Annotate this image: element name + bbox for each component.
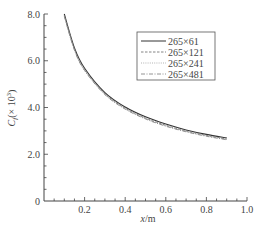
legend-label: 265×481 xyxy=(168,69,204,80)
x-tick-label: 0.2 xyxy=(78,204,91,215)
legend: 265×61 265×121 265×241 265×481 xyxy=(137,32,215,80)
x-tick-label: 0.6 xyxy=(160,204,173,215)
x-tick-label: 1.0 xyxy=(241,204,254,215)
y-tick-label: 0 xyxy=(35,196,40,207)
y-axis-title: Cf(× 103) xyxy=(5,90,19,127)
y-axis-title-close: ) xyxy=(6,90,18,93)
svg-text:Cf(× 103): Cf(× 103) xyxy=(5,90,19,127)
chart-canvas: 0.20.40.60.81.002.04.06.08.0 265×61 265×… xyxy=(0,0,264,233)
x-tick-label: 0.4 xyxy=(119,204,132,215)
svg-text:x/m: x/m xyxy=(139,213,155,224)
y-tick-label: 8.0 xyxy=(28,9,41,20)
x-axis-title-unit: /m xyxy=(145,213,156,224)
y-tick-label: 2.0 xyxy=(28,149,41,160)
legend-label: 265×121 xyxy=(168,47,204,58)
y-tick-label: 6.0 xyxy=(28,55,41,66)
y-tick-label: 4.0 xyxy=(28,102,41,113)
legend-label: 265×61 xyxy=(168,36,199,47)
y-axis-title-paren: (× 10 xyxy=(6,96,18,117)
legend-label: 265×241 xyxy=(168,58,204,69)
x-tick-label: 0.8 xyxy=(200,204,213,215)
x-axis-title: x/m xyxy=(139,213,155,224)
